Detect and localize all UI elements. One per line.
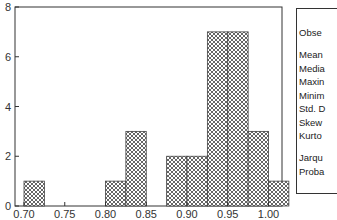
stat-label: Maxin	[299, 76, 324, 87]
stat-label: Mean	[299, 49, 323, 60]
stat-label: Proba	[299, 166, 324, 177]
histogram-bar	[228, 32, 248, 206]
stat-label: Minim	[299, 90, 324, 101]
stat-label: Jarqu	[299, 152, 323, 163]
y-tick-label: 8	[5, 1, 11, 13]
stat-label: Obse	[299, 27, 322, 38]
stat-label: Std. D	[299, 103, 325, 114]
histogram-bar	[167, 156, 187, 206]
histogram-bar	[207, 32, 227, 206]
y-tick-label: 0	[5, 200, 11, 212]
y-tick-label: 6	[5, 51, 11, 63]
x-tick-label: 0.70	[13, 208, 34, 220]
histogram-bar	[126, 131, 146, 206]
histogram-bar	[24, 181, 44, 206]
x-tick-label: 0.75	[54, 208, 75, 220]
x-tick-label: 0.85	[136, 208, 157, 220]
x-tick-label: 0.95	[217, 208, 238, 220]
histogram-bar	[269, 181, 289, 206]
statistics-panel: ObseMeanMediaMaxinMinimStd. DSkewKurtoJa…	[296, 8, 337, 194]
stat-label: Skew	[299, 117, 322, 128]
x-tick-label: 1.00	[258, 208, 279, 220]
histogram-bars	[24, 32, 289, 206]
histogram-bar	[187, 156, 207, 206]
x-tick-label: 0.90	[176, 208, 197, 220]
histogram-bar	[106, 181, 126, 206]
y-tick-label: 2	[5, 150, 11, 162]
x-tick-label: 0.80	[95, 208, 116, 220]
stat-label: Kurto	[299, 130, 322, 141]
stat-label: Media	[299, 63, 325, 74]
histogram-bar	[248, 131, 268, 206]
y-tick-label: 4	[5, 101, 11, 113]
y-axis: 02468	[5, 1, 19, 212]
